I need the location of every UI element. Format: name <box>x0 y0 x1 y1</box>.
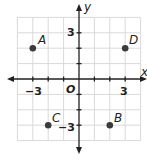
point-b: B <box>107 111 123 129</box>
y-axis-down-arrow-icon <box>76 147 82 154</box>
y-tick-label-neg3: −3 <box>58 121 75 134</box>
point-label: D <box>129 33 138 47</box>
y-tick-label-pos3: 3 <box>67 26 75 39</box>
y-axis-label: y <box>83 0 92 14</box>
x-axis-label: x <box>140 65 147 79</box>
x-tick-label-pos3: 3 <box>120 85 128 98</box>
x-tick-label-neg3: −3 <box>25 85 42 98</box>
point-marker <box>45 122 52 129</box>
point-marker <box>107 122 114 129</box>
point-d: D <box>122 33 138 52</box>
coordinate-plane: y x −3 3 3 −3 O A D C B <box>0 0 147 160</box>
point-label: C <box>52 111 61 125</box>
point-a: A <box>30 33 47 52</box>
origin-label: O <box>66 83 75 96</box>
point-marker <box>122 45 129 52</box>
x-axis <box>7 76 147 82</box>
point-marker <box>30 45 37 52</box>
point-label: B <box>114 111 122 125</box>
y-axis-up-arrow-icon <box>76 4 82 11</box>
point-label: A <box>37 33 46 47</box>
x-axis-left-arrow-icon <box>7 76 14 82</box>
